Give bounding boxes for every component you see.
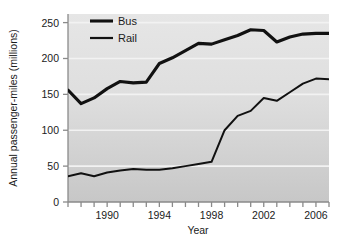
chart-figure: 050100150200250 19901994199820022006 Bus…: [0, 0, 340, 244]
x-tick-label: 2006: [304, 209, 328, 221]
y-tick-label: 100: [41, 124, 59, 136]
line-chart: 050100150200250 19901994199820022006 Bus…: [0, 0, 340, 244]
x-tick-label: 1990: [95, 209, 119, 221]
y-tick-label: 150: [41, 88, 59, 100]
legend-label-bus: Bus: [118, 15, 137, 27]
y-tick-label: 50: [47, 160, 59, 172]
y-axis-title: Annual passenger-miles (millions): [7, 29, 19, 187]
y-tick-label: 0: [53, 196, 59, 208]
x-tick-label: 1994: [148, 209, 172, 221]
y-tick-label: 250: [41, 17, 59, 29]
legend-label-rail: Rail: [118, 32, 137, 44]
x-axis-ticks: [68, 202, 329, 207]
figure-footnote: [6, 236, 336, 244]
x-tick-label: 1998: [200, 209, 224, 221]
x-axis-title: Year: [187, 224, 209, 236]
x-tick-label: 2002: [252, 209, 276, 221]
y-tick-label: 200: [41, 52, 59, 64]
